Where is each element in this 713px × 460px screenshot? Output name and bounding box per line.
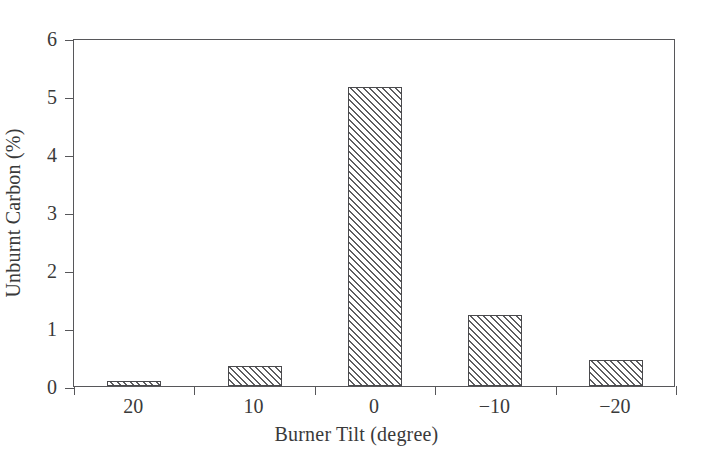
- x-axis-tick: [74, 386, 75, 395]
- x-axis-tick: [556, 386, 557, 395]
- x-axis-tick: [315, 386, 316, 395]
- bar-slot: [435, 40, 555, 386]
- bar: [107, 381, 161, 386]
- bar-slot: [556, 40, 676, 386]
- plot-area: [73, 39, 675, 387]
- x-axis-tick-label: −20: [555, 396, 675, 416]
- x-axis-tick-label: 0: [314, 396, 434, 416]
- y-axis-tick: [65, 272, 74, 273]
- bars-layer: [74, 40, 674, 386]
- x-axis-tick-label: 20: [73, 396, 193, 416]
- bar-slot: [194, 40, 314, 386]
- bar-chart-figure: 0123456 20100−10−20 Unburnt Carbon (%) B…: [0, 0, 713, 460]
- bar: [589, 360, 643, 386]
- x-axis-tick: [194, 386, 195, 395]
- y-axis-title: Unburnt Carbon (%): [0, 39, 26, 387]
- y-axis-tick: [65, 388, 74, 389]
- y-axis-tick: [65, 156, 74, 157]
- y-axis-tick: [65, 214, 74, 215]
- bar-slot: [315, 40, 435, 386]
- y-axis-tick: [65, 98, 74, 99]
- bar: [228, 366, 282, 386]
- bar-slot: [74, 40, 194, 386]
- bar: [348, 87, 402, 386]
- y-axis-tick: [65, 330, 74, 331]
- bar: [468, 315, 522, 386]
- x-axis-tick: [676, 386, 677, 395]
- x-axis-tick-label: −10: [434, 396, 554, 416]
- y-axis-tick: [65, 40, 74, 41]
- x-axis-tick: [435, 386, 436, 395]
- x-axis-tick-label: 10: [194, 396, 314, 416]
- x-axis-title: Burner Tilt (degree): [0, 424, 713, 444]
